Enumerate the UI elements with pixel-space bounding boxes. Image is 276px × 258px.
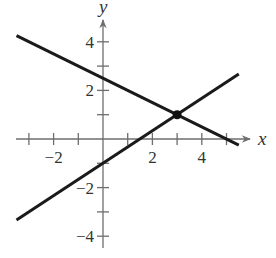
series-lines — [17, 36, 239, 220]
x-tick-label: −2 — [45, 148, 63, 167]
y-tick-label: −4 — [76, 227, 95, 246]
x-tick-label: 2 — [148, 148, 157, 167]
y-tick-label: −2 — [76, 179, 94, 198]
chart: −22442−2−4 x y — [0, 0, 276, 258]
x-tick-label: 4 — [198, 148, 207, 167]
y-axis-label: y — [97, 0, 108, 17]
y-tick-label: 4 — [86, 33, 95, 52]
points — [173, 110, 182, 119]
y-tick-label: 2 — [86, 81, 95, 100]
intersection-point — [173, 110, 182, 119]
series-line-1 — [17, 36, 239, 145]
series-line-2 — [17, 74, 239, 220]
x-axis-label: x — [257, 128, 267, 149]
